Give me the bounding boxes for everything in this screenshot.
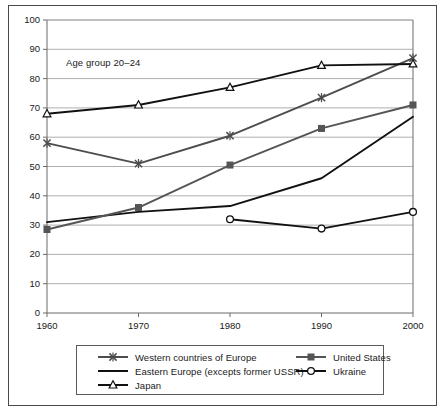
y-tick-label: 70 (14, 102, 40, 113)
x-tick-label: 1980 (210, 320, 250, 331)
legend-swatch-triangle-open-icon (97, 378, 129, 392)
y-tick-label: 10 (14, 278, 40, 289)
legend-item[interactable]: Japan (97, 378, 304, 392)
legend-marker (97, 350, 129, 364)
y-tick-label: 20 (14, 248, 40, 259)
x-tick-label: 1960 (27, 320, 67, 331)
y-tick-marks (43, 20, 47, 313)
x-tick-label: 1990 (302, 320, 342, 331)
y-tick-label: 50 (14, 161, 40, 172)
legend-item[interactable]: Western countries of Europe (97, 350, 304, 364)
y-tick-label: 60 (14, 131, 40, 142)
chart-legend: Western countries of EuropeEastern Europ… (76, 345, 384, 395)
legend-marker (97, 378, 129, 392)
chart-annotation: Age group 20–24 (66, 57, 140, 68)
x-tick-label: 1970 (119, 320, 159, 331)
legend-item[interactable]: Ukraine (295, 364, 391, 378)
legend-label: Japan (135, 380, 161, 391)
legend-label: Eastern Europe (excepts former USSR) (135, 366, 304, 377)
legend-marker (295, 364, 327, 378)
legend-swatch-none-icon (97, 364, 129, 378)
chart-figure: Age group 20–24 0102030405060708090100 1… (0, 0, 447, 417)
legend-marker (97, 364, 129, 378)
y-tick-label: 90 (14, 43, 40, 54)
legend-marker (295, 350, 327, 364)
y-tick-label: 40 (14, 190, 40, 201)
legend-column-left: Western countries of EuropeEastern Europ… (97, 350, 304, 392)
x-tick-marks (47, 313, 413, 317)
legend-label: Ukraine (333, 366, 366, 377)
x-tick-label: 2000 (393, 320, 433, 331)
legend-label: Western countries of Europe (135, 352, 257, 363)
legend-swatch-circle-open-icon (295, 364, 327, 378)
legend-label: United States (333, 352, 391, 363)
y-tick-label: 30 (14, 219, 40, 230)
y-tick-label: 100 (14, 14, 40, 25)
legend-swatch-square-filled-icon (295, 350, 327, 364)
legend-swatch-x-cross-icon (97, 350, 129, 364)
legend-item[interactable]: United States (295, 350, 391, 364)
y-tick-label: 0 (14, 307, 40, 318)
legend-item[interactable]: Eastern Europe (excepts former USSR) (97, 364, 304, 378)
legend-column-right: United StatesUkraine (295, 350, 391, 378)
y-tick-label: 80 (14, 73, 40, 84)
